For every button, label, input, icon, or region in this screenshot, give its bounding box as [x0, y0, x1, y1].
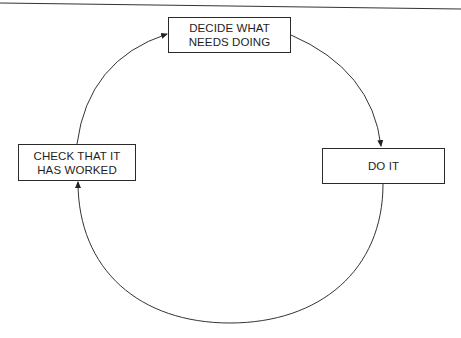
- node-do-it: DO IT: [322, 148, 445, 184]
- node-label: DECIDE WHAT: [189, 21, 270, 35]
- node-label: DO IT: [368, 159, 399, 173]
- node-label: HAS WORKED: [37, 163, 117, 177]
- node-label: NEEDS DOING: [189, 35, 271, 49]
- arrow-do-to-check: [78, 182, 383, 323]
- arrow-check-to-decide: [77, 34, 167, 144]
- node-decide-what-needs-doing: DECIDE WHAT NEEDS DOING: [168, 17, 291, 53]
- arrow-decide-to-do: [291, 35, 381, 146]
- node-label: CHECK THAT IT: [34, 149, 121, 163]
- node-check-that-it-has-worked: CHECK THAT IT HAS WORKED: [18, 144, 136, 181]
